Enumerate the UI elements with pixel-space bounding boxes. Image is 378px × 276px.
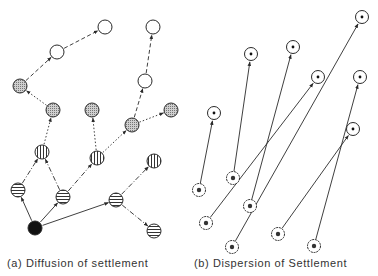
settlement-node-dot [13, 79, 27, 93]
diffusion-arrow [44, 118, 51, 145]
diffusion-arrow [139, 113, 163, 122]
settlement-node-dot [164, 103, 178, 117]
diffusion-arrow [122, 167, 149, 195]
source-center-dot [230, 245, 234, 249]
settlement-node-vstripe [35, 145, 49, 159]
settlement-node-dot [46, 103, 60, 117]
settlement-node-vstripe [90, 151, 104, 165]
panel-diffusion [11, 20, 178, 238]
settlement-node-white [50, 45, 64, 59]
settlement-node-vstripe [147, 154, 161, 168]
diffusion-arrow [122, 205, 148, 226]
source-center-dot [204, 221, 208, 225]
dispersion-arrow [200, 121, 212, 183]
caption-diffusion: (a) Diffusion of settlement [7, 257, 148, 269]
dispersion-arrow [234, 62, 250, 171]
dispersion-arrow [282, 136, 348, 229]
diffusion-arrow [64, 31, 98, 49]
dispersion-arrow [316, 85, 358, 240]
settlement-node-hstripe [109, 193, 123, 207]
diffusion-arrow [21, 197, 31, 220]
diffusion-arrow [43, 203, 109, 226]
diffusion-arrow [146, 35, 152, 73]
diffusion-arrow [134, 89, 142, 118]
source-center-dot [312, 244, 316, 248]
diffusion-arrow [93, 118, 96, 150]
settlement-node-hstripe [56, 190, 70, 204]
diffusion-arrow [103, 130, 126, 152]
destination-center-dot [361, 16, 364, 19]
diffusion-arrow [45, 159, 59, 190]
settlement-node-white [98, 20, 112, 34]
panel-dispersion [193, 11, 369, 254]
diffusion-arrow [22, 159, 37, 183]
diffusion-arrow [68, 164, 91, 191]
destination-center-dot [317, 76, 320, 79]
source-center-dot [197, 188, 201, 192]
diffusion-arrow [26, 91, 46, 106]
settlement-node-hstripe [11, 183, 25, 197]
diffusion-arrow [26, 57, 51, 80]
source-center-dot [276, 232, 280, 236]
settlement-node-black [28, 221, 42, 235]
settlement-node-white [138, 74, 152, 88]
destination-center-dot [213, 112, 216, 115]
settlement-node-dot [125, 118, 139, 132]
caption-dispersion: (b) Dispersion of Settlement [194, 257, 347, 269]
destination-center-dot [292, 46, 295, 49]
source-center-dot [231, 176, 235, 180]
settlement-node-hstripe [147, 224, 161, 238]
dispersion-arrow [210, 83, 313, 217]
diffusion-arrow [40, 203, 57, 222]
destination-center-dot [250, 53, 253, 56]
source-center-dot [248, 204, 252, 208]
settlement-node-dot [85, 103, 99, 117]
destination-center-dot [359, 76, 362, 79]
settlement-node-white [146, 20, 160, 34]
destination-center-dot [352, 128, 355, 131]
settlement-diagram [0, 0, 378, 276]
